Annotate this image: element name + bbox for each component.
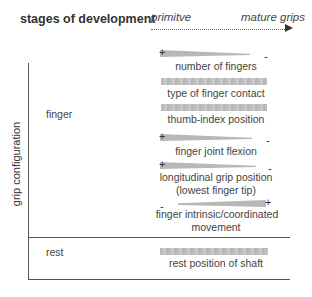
parameter-label: finger intrinsic/coordinated (122, 208, 312, 220)
plus-sign: + (265, 197, 271, 207)
parameter-label: thumb-index position (131, 113, 301, 125)
category-finger: finger (46, 108, 72, 120)
trend-bar-flat (161, 78, 267, 85)
parameter-label: rest position of shaft (131, 257, 301, 269)
parameter-label-line2: movement (131, 221, 301, 233)
category-rest: rest (46, 246, 64, 258)
parameter-label: number of fingers (131, 60, 301, 72)
stage-end-label: mature grips (241, 11, 305, 23)
diagram-title: stages of development (20, 12, 155, 26)
y-axis-line (28, 63, 29, 280)
y-axis-label: grip configuration (10, 114, 22, 214)
arrow-right-icon (285, 24, 293, 32)
parameter-label-line2: (lowest finger tip) (131, 184, 301, 196)
bottom-line (28, 279, 290, 280)
category-divider (28, 237, 290, 238)
trend-bar-decreasing (160, 162, 256, 169)
parameter-label: finger joint flexion (131, 145, 301, 157)
trend-bar-increasing (178, 200, 266, 207)
trend-bar-decreasing (160, 134, 252, 141)
parameter-label: longitudinal grip position (126, 171, 306, 183)
plus-sign: + (159, 159, 165, 169)
trend-bar-decreasing (160, 50, 250, 57)
parameter-label: type of finger contact (131, 87, 301, 99)
trend-bar-flat (160, 248, 268, 255)
plus-sign: + (159, 47, 165, 57)
development-arrow-line (151, 29, 287, 30)
minus-sign: - (266, 135, 270, 145)
plus-sign: + (159, 131, 165, 141)
trend-bar-flat (161, 104, 267, 111)
stage-start-label: primitve (151, 11, 191, 23)
